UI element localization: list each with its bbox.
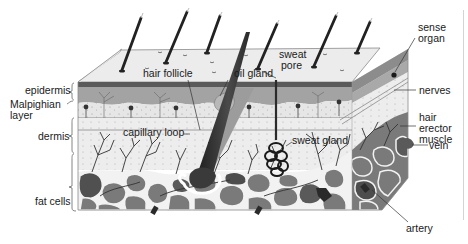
frame-edge — [463, 10, 464, 220]
label-malpighian-layer: Malpighian layer — [10, 99, 61, 121]
label-capillary-loop: capillary loop — [123, 127, 184, 138]
label-nerves: nerves — [419, 85, 451, 96]
label-sweat-gland: sweat gland — [292, 135, 348, 146]
label-sense-organ: sense organ — [418, 22, 446, 44]
left-brackets — [67, 83, 76, 211]
skin-cross-section-illustration — [0, 0, 468, 244]
label-dermis: dermis — [38, 131, 70, 142]
skin-diagram: epidermis Malpighian layer dermis fat ce… — [0, 0, 468, 244]
sense-organ — [391, 72, 396, 77]
label-artery: artery — [406, 223, 433, 234]
label-oil-gland: oil gland — [234, 68, 273, 79]
label-epidermis: epidermis — [25, 85, 71, 96]
label-sweat-pore: sweat pore — [279, 49, 306, 71]
epidermis-layer — [78, 82, 352, 87]
label-vein: vein — [429, 140, 448, 151]
vein — [402, 138, 414, 149]
label-fat-cells: fat cells — [35, 196, 71, 207]
label-hair-follicle: hair follicle — [143, 68, 193, 79]
